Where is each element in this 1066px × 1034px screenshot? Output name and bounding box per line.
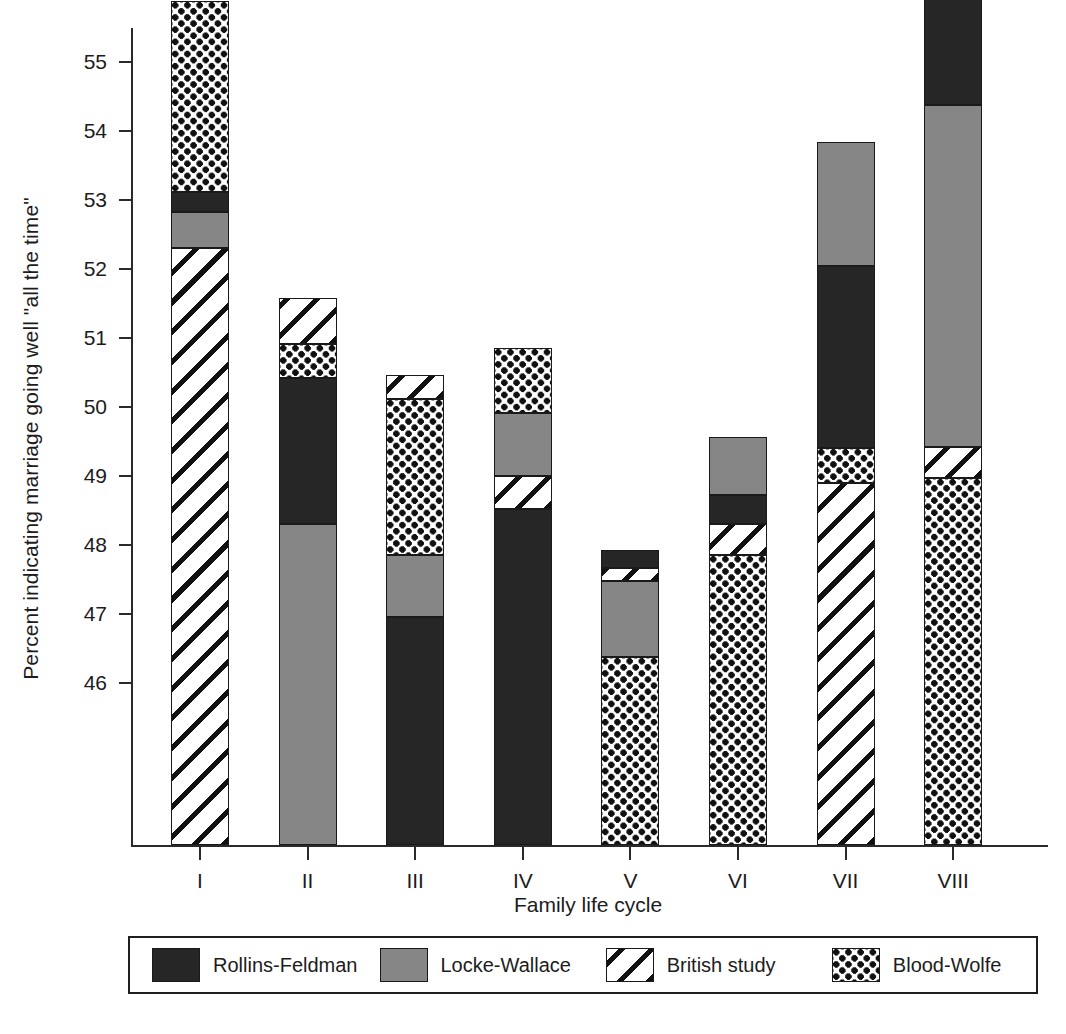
x-tick-label-II: II <box>263 870 353 891</box>
bar-segment-gray <box>924 105 982 447</box>
x-tick-label-IV: IV <box>478 870 568 891</box>
bar-segment-dots <box>494 348 552 412</box>
y-tick-label: 47 <box>47 603 107 624</box>
bar-segment-dots <box>171 1 229 191</box>
legend-item-gray: Locke-Wallace <box>358 948 584 982</box>
bar-segment-gray <box>494 413 552 476</box>
y-tick-label: 55 <box>47 51 107 72</box>
x-tick-label-VII: VII <box>801 870 891 891</box>
bar-segment-hatch <box>601 568 659 581</box>
chart-legend: Rollins-FeldmanLocke-WallaceBritish stud… <box>128 936 1038 994</box>
y-tick-mark <box>119 268 131 270</box>
bar-segment-hatch <box>279 298 337 344</box>
bar-VIII <box>924 0 982 845</box>
legend-item-dots: Blood-Wolfe <box>810 948 1036 982</box>
bar-V <box>601 550 659 845</box>
bar-VII <box>817 142 875 845</box>
legend-swatch-hatch <box>606 948 654 982</box>
legend-label: British study <box>667 954 776 977</box>
bar-segment-hatch <box>709 524 767 555</box>
y-tick-label: 51 <box>47 327 107 348</box>
bar-segment-gray <box>171 212 229 249</box>
bar-segment-gray <box>601 581 659 657</box>
y-tick-label: 49 <box>47 465 107 486</box>
bar-segment-dots <box>279 344 337 378</box>
x-tick-label-VIII: VIII <box>908 870 998 891</box>
y-tick-label: 53 <box>47 189 107 210</box>
legend-swatch-black <box>152 948 200 982</box>
bar-VI <box>709 437 767 845</box>
bar-segment-black <box>924 0 982 105</box>
x-tick-mark <box>199 847 201 860</box>
bar-segment-hatch <box>171 248 229 845</box>
y-tick-mark <box>119 406 131 408</box>
y-tick-mark <box>119 613 131 615</box>
bar-segment-hatch <box>494 476 552 509</box>
bar-segment-hatch <box>924 447 982 478</box>
x-tick-mark <box>629 847 631 860</box>
bar-segment-hatch <box>386 375 444 399</box>
y-tick-mark <box>119 130 131 132</box>
y-tick-label: 48 <box>47 534 107 555</box>
legend-item-hatch: British study <box>584 948 810 982</box>
legend-item-black: Rollins-Feldman <box>130 948 358 982</box>
bar-IV <box>494 348 552 845</box>
x-tick-mark <box>845 847 847 860</box>
x-tick-label-III: III <box>370 870 460 891</box>
bar-segment-dots <box>601 657 659 845</box>
stacked-bar-chart: Percent indicating marriage going well "… <box>0 0 1066 1034</box>
bar-segment-black <box>817 266 875 448</box>
bar-segment-black <box>171 192 229 212</box>
bar-segment-gray <box>709 437 767 496</box>
y-tick-label: 46 <box>47 672 107 693</box>
bar-I <box>171 1 229 845</box>
y-tick-mark <box>119 61 131 63</box>
bar-segment-black <box>279 378 337 524</box>
y-axis-title: Percent indicating marriage going well "… <box>14 30 48 847</box>
y-tick-mark <box>119 337 131 339</box>
x-axis-title: Family life cycle <box>130 893 1046 917</box>
bar-segment-black <box>601 550 659 568</box>
x-tick-label-V: V <box>585 870 675 891</box>
legend-label: Blood-Wolfe <box>893 954 1002 977</box>
bar-segment-gray <box>279 524 337 845</box>
y-tick-mark <box>119 475 131 477</box>
legend-label: Rollins-Feldman <box>213 954 358 977</box>
bar-segment-dots <box>924 478 982 845</box>
legend-swatch-gray <box>380 948 428 982</box>
legend-label: Locke-Wallace <box>441 954 571 977</box>
bar-segment-gray <box>817 142 875 266</box>
x-tick-label-I: I <box>155 870 245 891</box>
x-tick-mark <box>307 847 309 860</box>
bar-segment-dots <box>817 448 875 483</box>
bar-segment-black <box>494 509 552 845</box>
x-tick-mark <box>737 847 739 860</box>
legend-swatch-dots <box>832 948 880 982</box>
y-tick-label: 52 <box>47 258 107 279</box>
y-axis-line <box>131 28 133 847</box>
bar-segment-dots <box>709 555 767 845</box>
y-tick-label: 54 <box>47 120 107 141</box>
y-tick-label: 56 <box>47 0 107 3</box>
x-tick-mark <box>952 847 954 860</box>
x-axis-line <box>131 845 1048 847</box>
x-tick-mark <box>522 847 524 860</box>
x-tick-label-VI: VI <box>693 870 783 891</box>
y-tick-label: 50 <box>47 396 107 417</box>
bar-III <box>386 375 444 845</box>
y-tick-mark <box>119 199 131 201</box>
bar-II <box>279 298 337 845</box>
bar-segment-black <box>386 617 444 845</box>
bar-segment-gray <box>386 555 444 617</box>
bar-segment-hatch <box>817 483 875 845</box>
x-tick-mark <box>414 847 416 860</box>
bar-segment-dots <box>386 399 444 556</box>
y-tick-mark <box>119 544 131 546</box>
y-tick-mark <box>119 682 131 684</box>
bar-segment-black <box>709 495 767 524</box>
